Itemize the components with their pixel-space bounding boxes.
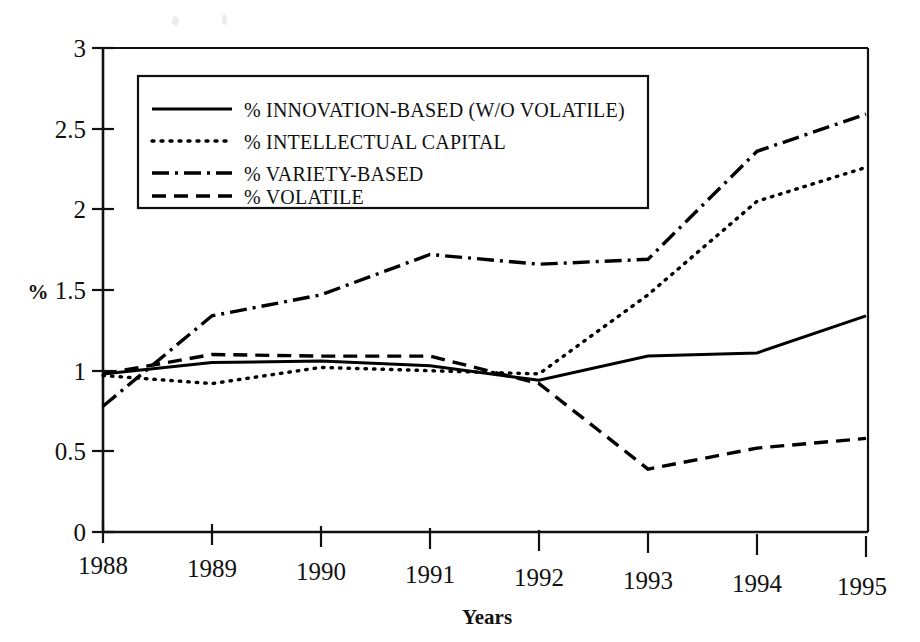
legend-label-variety-based: % VARIETY-BASED <box>244 163 424 185</box>
y-tick-label-2.5: 2.5 <box>55 116 86 143</box>
x-tick-marks <box>103 522 866 557</box>
x-tick-label-1992: 1992 <box>514 564 564 591</box>
y-axis-title: % <box>28 280 49 304</box>
y-tick-label-2: 2 <box>74 196 87 223</box>
y-tick-labels: 3 2.5 2 1.5 1 0.5 0 <box>55 35 86 546</box>
y-tick-label-1: 1 <box>74 358 87 385</box>
x-tick-label-1990: 1990 <box>296 558 346 585</box>
line-chart-figure: 3 2.5 2 1.5 1 0.5 0 % 1988 1989 1990 199… <box>0 0 920 642</box>
legend-label-innovation-based: % INNOVATION-BASED (W/O VOLATILE) <box>244 99 625 122</box>
x-tick-label-1993: 1993 <box>623 567 673 594</box>
y-tick-label-0.5: 0.5 <box>55 438 86 465</box>
y-tick-label-0: 0 <box>74 519 87 546</box>
x-tick-label-1988: 1988 <box>78 552 128 579</box>
x-tick-label-1991: 1991 <box>405 561 455 588</box>
chart-svg: 3 2.5 2 1.5 1 0.5 0 % 1988 1989 1990 199… <box>0 0 920 642</box>
x-tick-label-1994: 1994 <box>732 570 783 597</box>
scan-artifact-speck <box>222 14 227 25</box>
legend-label-intellectual-capital: % INTELLECTUAL CAPITAL <box>244 131 506 153</box>
x-tick-label-1995: 1995 <box>837 573 887 600</box>
y-tick-label-1.5: 1.5 <box>55 277 86 304</box>
legend: % INNOVATION-BASED (W/O VOLATILE) % INTE… <box>138 76 648 208</box>
x-tick-labels: 1988 1989 1990 1991 1992 1993 1994 1995 <box>78 552 887 600</box>
x-tick-label-1989: 1989 <box>187 555 237 582</box>
scan-artifact-speck <box>172 16 179 26</box>
x-axis-title: Years <box>462 605 512 629</box>
legend-label-volatile: % VOLATILE <box>244 186 364 208</box>
y-tick-label-3: 3 <box>74 35 87 62</box>
